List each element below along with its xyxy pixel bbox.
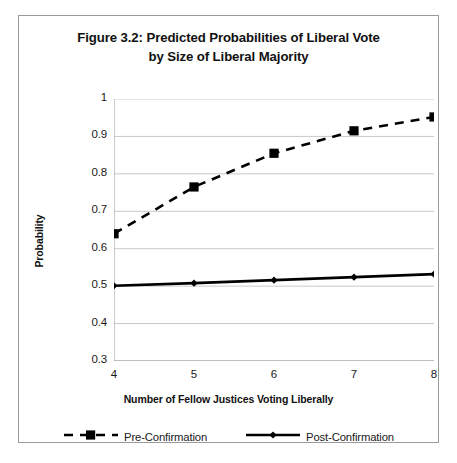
- y-tick-label: 0.6: [73, 241, 107, 253]
- y-tick-label: 0.9: [73, 128, 107, 140]
- y-tick-label: 0.7: [73, 203, 107, 215]
- x-tick-label: 7: [341, 368, 367, 380]
- legend-entry-2[interactable]: Post-Confirmation: [245, 428, 394, 446]
- data-point-marker: [350, 274, 357, 281]
- legend-swatch: [63, 428, 119, 446]
- y-tick-label: 0.4: [73, 316, 107, 328]
- data-point-marker: [114, 229, 119, 238]
- data-point-marker: [349, 126, 358, 135]
- data-point-marker: [189, 182, 198, 191]
- figure-frame: Figure 3.2: Predicted Probabilities of L…: [18, 15, 439, 443]
- axis-lines: [114, 99, 434, 361]
- data-point-marker: [429, 112, 434, 121]
- chart-legend: Pre-ConfirmationPost-Confirmation: [19, 428, 438, 446]
- data-point-marker: [430, 271, 434, 278]
- series-1: [114, 112, 434, 238]
- data-series-layer: [114, 112, 434, 289]
- legend-label: Post-Confirmation: [306, 431, 394, 443]
- legend-label: Pre-Confirmation: [124, 431, 207, 443]
- data-point-marker: [269, 149, 278, 158]
- plot-area: [114, 99, 434, 361]
- series-line: [114, 117, 434, 234]
- y-tick-label: 0.3: [73, 353, 107, 365]
- data-point-marker: [114, 282, 118, 289]
- x-tick-label: 6: [261, 368, 287, 380]
- x-tick-label: 8: [421, 368, 447, 380]
- legend-swatch: [245, 428, 301, 446]
- x-tick-label: 5: [181, 368, 207, 380]
- x-axis-tick-labels: 45678: [114, 368, 434, 386]
- x-axis-title: Number of Fellow Justices Voting Liberal…: [19, 393, 438, 405]
- data-point-marker: [270, 277, 277, 284]
- y-tick-label: 0.8: [73, 166, 107, 178]
- y-tick-label: 0.5: [73, 278, 107, 290]
- y-axis-title: Probability: [33, 186, 45, 296]
- gridlines: [114, 99, 434, 361]
- chart-plot-svg: [114, 99, 434, 361]
- legend-entry-1[interactable]: Pre-Confirmation: [63, 428, 207, 446]
- y-tick-label: 1: [73, 91, 107, 103]
- x-tick-label: 4: [101, 368, 127, 380]
